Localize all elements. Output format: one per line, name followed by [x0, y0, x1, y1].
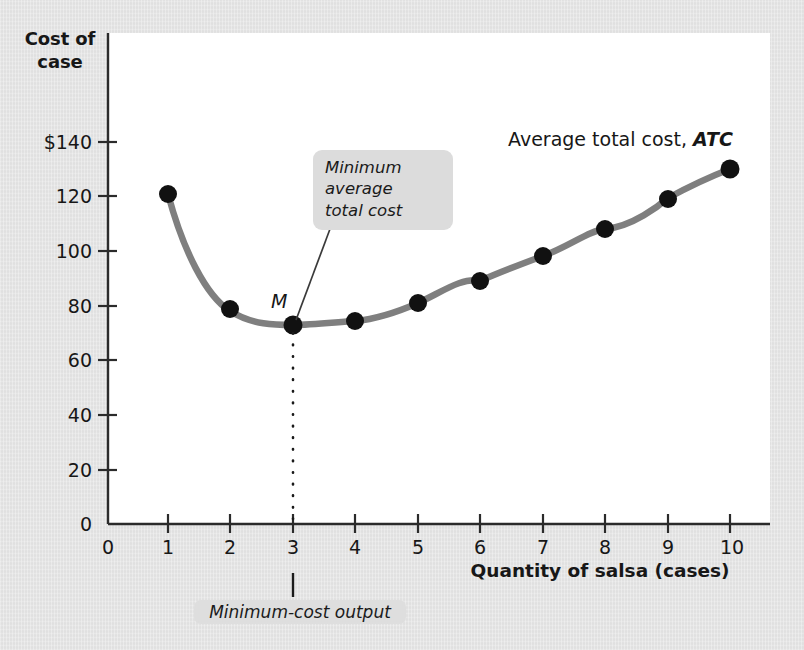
x-tick-label: 3 — [265, 536, 321, 558]
x-tick-label: 10 — [704, 536, 760, 558]
x-tick-label: 2 — [202, 536, 258, 558]
minimum-cost-output-label: Minimum-cost output — [194, 600, 406, 624]
data-point — [596, 220, 614, 238]
figure-root: Cost of case $140 120 100 80 60 40 20 0 … — [0, 0, 804, 650]
callout-line-1: Minimum — [325, 157, 443, 178]
data-point — [284, 316, 303, 335]
x-tick-label: 8 — [577, 536, 633, 558]
x-tick-label: 5 — [390, 536, 446, 558]
callout-minimum-average-total-cost: Minimum average total cost — [313, 150, 453, 230]
series-label-abbr: ATC — [693, 128, 733, 150]
data-point — [346, 312, 364, 330]
series-label-text: Average total cost, — [508, 128, 687, 150]
x-tick-label: 1 — [140, 536, 196, 558]
data-point — [409, 294, 427, 312]
y-axis-title-line1: Cost of — [14, 28, 106, 51]
y-tick-label: 40 — [8, 404, 92, 426]
y-tick-label: 80 — [8, 295, 92, 317]
y-tick-label: 100 — [8, 240, 92, 262]
y-tick-label: $140 — [8, 131, 92, 153]
x-tick-label: 7 — [515, 536, 571, 558]
callout-line-3: total cost — [325, 200, 443, 221]
y-axis-title-line2: case — [14, 51, 106, 74]
data-point — [721, 160, 740, 179]
data-point — [471, 272, 489, 290]
y-axis-title: Cost of case — [14, 28, 106, 73]
x-tick-label: 0 — [80, 536, 136, 558]
minimum-point-label: M — [271, 290, 287, 312]
y-tick-label: 120 — [8, 185, 92, 207]
y-tick-label: 20 — [8, 459, 92, 481]
callout-line-2: average — [325, 178, 443, 199]
data-point — [659, 190, 677, 208]
series-label-atc: Average total cost, ATC — [508, 128, 733, 150]
y-tick-label: 60 — [8, 349, 92, 371]
x-tick-label: 6 — [452, 536, 508, 558]
y-tick-label: 0 — [8, 513, 92, 535]
data-point — [534, 247, 552, 265]
x-axis-title: Quantity of salsa (cases) — [430, 560, 770, 581]
data-point — [221, 300, 239, 318]
plot-area-background — [108, 33, 770, 524]
x-tick-label: 9 — [640, 536, 696, 558]
data-point — [159, 185, 177, 203]
x-tick-label: 4 — [327, 536, 383, 558]
